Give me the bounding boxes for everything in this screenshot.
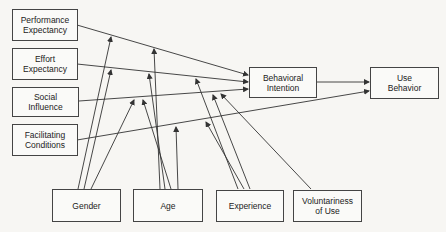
mod-gender-ee	[84, 70, 111, 189]
label-behavioral-intention: Behavioral Intention	[263, 73, 303, 93]
box-social-influence: Social Influence	[12, 87, 79, 117]
mod-experience-fc	[206, 122, 244, 189]
mod-gender-si	[91, 100, 134, 189]
label-performance-expectancy: Performance Expectancy	[21, 15, 70, 35]
mod-gender-pe	[78, 37, 111, 189]
mod-age-ee	[149, 74, 165, 189]
box-experience: Experience	[216, 190, 284, 222]
edge-pe-bi	[77, 25, 248, 75]
box-effort-expectancy: Effort Expectancy	[12, 48, 78, 80]
mod-experience-si	[213, 95, 250, 189]
box-behavioral-intention: Behavioral Intention	[249, 67, 317, 98]
box-age: Age	[133, 189, 203, 222]
box-voluntariness-of-use: Voluntariness of Use	[293, 190, 362, 222]
label-effort-expectancy: Effort Expectancy	[23, 54, 67, 74]
box-facilitating-conditions: Facilitating Conditions	[12, 124, 78, 156]
utaut-diagram: Performance Expectancy Effort Expectancy…	[0, 0, 446, 232]
box-performance-expectancy: Performance Expectancy	[12, 9, 78, 41]
label-facilitating-conditions: Facilitating Conditions	[25, 130, 66, 150]
label-age: Age	[160, 201, 175, 211]
mod-experience-ee	[196, 79, 238, 189]
label-use-behavior: Use Behavior	[388, 73, 422, 93]
label-voluntariness-of-use: Voluntariness of Use	[302, 196, 353, 216]
box-use-behavior: Use Behavior	[370, 67, 439, 99]
label-social-influence: Social Influence	[28, 92, 63, 112]
edge-ee-bi	[77, 64, 248, 82]
box-gender: Gender	[52, 189, 121, 222]
label-experience: Experience	[229, 201, 272, 211]
label-gender: Gender	[72, 201, 100, 211]
mod-age-fc	[176, 127, 178, 189]
